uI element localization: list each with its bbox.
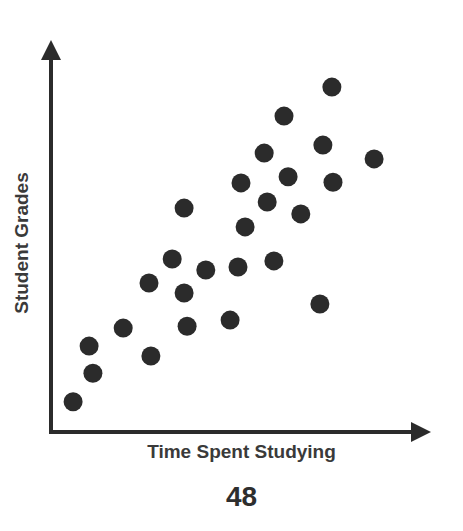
x-axis-label: Time Spent Studying bbox=[0, 441, 463, 463]
data-point bbox=[175, 199, 194, 218]
data-point bbox=[196, 261, 215, 280]
y-axis-label: Student Grades bbox=[11, 172, 33, 313]
data-point bbox=[64, 392, 83, 411]
data-point bbox=[141, 347, 160, 366]
data-point bbox=[83, 364, 102, 383]
data-point bbox=[163, 250, 182, 269]
data-point bbox=[255, 144, 274, 163]
data-point bbox=[175, 284, 194, 303]
data-point bbox=[365, 149, 384, 168]
data-point bbox=[178, 317, 197, 336]
data-point bbox=[80, 337, 99, 356]
y-axis-arrow-icon bbox=[41, 40, 61, 60]
data-point bbox=[229, 258, 248, 277]
data-point bbox=[310, 295, 329, 314]
data-point bbox=[324, 173, 343, 192]
data-points bbox=[64, 78, 384, 412]
data-point bbox=[313, 136, 332, 155]
data-point bbox=[279, 167, 298, 186]
data-point bbox=[264, 251, 283, 270]
data-point bbox=[322, 78, 341, 97]
axes bbox=[41, 40, 431, 442]
data-point bbox=[232, 173, 251, 192]
data-point bbox=[258, 193, 277, 212]
data-point bbox=[221, 311, 240, 330]
data-point bbox=[291, 204, 310, 223]
x-axis-arrow-icon bbox=[411, 422, 431, 442]
page-number: 48 bbox=[0, 481, 463, 513]
data-point bbox=[275, 107, 294, 126]
data-point bbox=[236, 217, 255, 236]
data-point bbox=[140, 274, 159, 293]
data-point bbox=[114, 319, 133, 338]
